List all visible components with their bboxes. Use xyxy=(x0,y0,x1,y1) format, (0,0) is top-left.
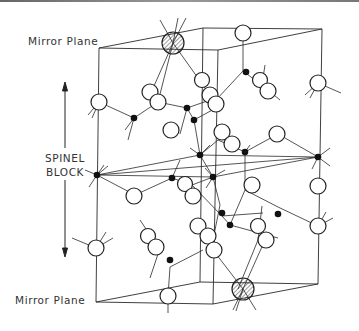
atom-open xyxy=(258,232,274,248)
spinel-crystal-structure-diagram xyxy=(0,0,359,331)
atom-filled xyxy=(191,117,198,124)
atom-open xyxy=(206,242,222,258)
atom-open xyxy=(208,96,224,112)
atom-open xyxy=(148,239,164,255)
atom-open xyxy=(244,177,260,193)
spinel-block-arrow xyxy=(63,82,68,257)
atom-filled xyxy=(219,210,226,217)
atom-open xyxy=(224,136,240,152)
atom-open xyxy=(160,288,176,304)
atom-filled xyxy=(227,222,234,229)
atom-open xyxy=(88,240,104,256)
atom-filled xyxy=(242,149,249,156)
atom-open xyxy=(235,25,251,41)
atom-filled xyxy=(184,105,191,112)
atom-filled xyxy=(94,172,101,179)
atom-filled xyxy=(169,175,176,182)
atom-filled xyxy=(210,174,217,181)
atom-filled xyxy=(275,211,282,218)
atom-filled xyxy=(167,257,174,264)
atom-filled xyxy=(131,115,138,122)
atom-open xyxy=(126,188,142,204)
atom-open xyxy=(310,218,326,234)
atom-open xyxy=(310,75,326,91)
atom-open xyxy=(185,188,201,204)
atom-open xyxy=(269,126,285,142)
atom-hatched-top xyxy=(162,32,184,54)
atom-filled xyxy=(315,154,322,161)
atom-open xyxy=(150,94,166,110)
atom-filled xyxy=(197,152,204,159)
atom-open xyxy=(310,178,326,194)
bond-network xyxy=(97,33,318,296)
atom-open xyxy=(251,219,266,234)
atom-open xyxy=(163,122,179,138)
atom-filled xyxy=(243,69,250,76)
atom-open xyxy=(91,94,107,110)
anion-atoms xyxy=(88,25,326,304)
atom-hatched-bottom xyxy=(232,278,254,300)
atom-open xyxy=(260,83,276,99)
atom-open xyxy=(195,73,210,88)
